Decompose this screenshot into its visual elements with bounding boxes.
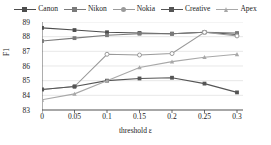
y-tick-label: 86 [8,63,30,70]
y-tick-label: 87 [8,48,30,55]
square-data-point [105,33,109,37]
square-data-point [42,26,44,30]
legend-label: Nokia [137,5,155,13]
square-data-point [170,76,174,80]
legend-label: Creative [185,5,210,13]
circle-data-point [235,34,239,38]
legend-label: Apex [240,5,256,13]
circle-marker-icon [121,7,126,12]
square-data-point [42,88,44,92]
circle-data-point [138,53,142,57]
series-nokia [42,30,239,91]
circle-data-point [105,52,109,56]
series-creative [42,76,239,94]
square-data-point [235,91,239,95]
plot-area [42,22,237,110]
plot-svg [42,22,249,118]
legend-item-nokia: Nokia [113,5,155,13]
legend-swatch-creative [161,6,183,13]
y-axis-tick-labels: 89888786858483 [8,0,30,145]
chart-figure: CanonNikonNokiaCreativeApex F1 898887868… [0,0,271,145]
square-data-point [138,77,142,81]
square-marker-icon [72,7,77,12]
legend-swatch-apex [216,6,238,13]
square-data-point [73,85,77,89]
legend-label: Canon [38,5,58,13]
x-axis-label: threshold ε [0,126,271,135]
chart-legend: CanonNikonNokiaCreativeApex [0,2,271,16]
square-marker-icon [169,7,174,12]
y-tick-label: 88 [8,33,30,40]
circle-data-point [203,30,207,34]
square-data-point [138,32,142,36]
y-tick-label: 89 [8,19,30,26]
legend-item-creative: Creative [161,5,210,13]
square-data-point [73,36,77,40]
legend-item-apex: Apex [216,5,256,13]
square-data-point [73,28,77,32]
triangle-marker-icon [224,7,228,12]
y-tick-label: 85 [8,77,30,84]
circle-data-point [170,52,174,56]
legend-swatch-nokia [113,6,135,13]
legend-item-nikon: Nikon [64,5,107,13]
square-data-point [203,82,207,86]
legend-swatch-nikon [64,6,86,13]
legend-label: Nikon [88,5,107,13]
square-data-point [42,39,44,43]
y-tick-label: 84 [8,92,30,99]
square-data-point [170,32,174,36]
